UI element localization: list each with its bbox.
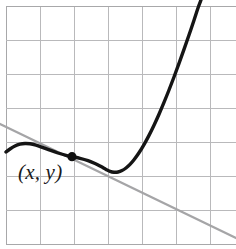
plot-background <box>0 0 236 249</box>
plot-area <box>0 0 236 249</box>
figure-container: (x, y) <box>0 0 236 249</box>
tangent-point-marker <box>67 152 76 161</box>
point-label: (x, y) <box>18 160 62 185</box>
